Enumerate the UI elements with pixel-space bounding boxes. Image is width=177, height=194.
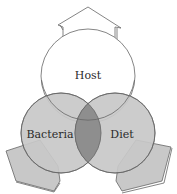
host-label: Host <box>75 69 102 82</box>
diet-label: Diet <box>110 128 134 141</box>
bacteria-label: Bacteria <box>26 128 74 141</box>
venn-diagram: Host Bacteria Diet <box>0 0 177 194</box>
